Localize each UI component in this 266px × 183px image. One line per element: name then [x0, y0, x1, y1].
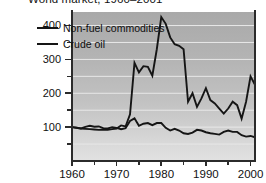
y-tick-major — [65, 126, 72, 128]
y-tick-label: 100 — [43, 122, 61, 133]
x-axis-ticks — [72, 161, 255, 167]
plot-right-spine — [254, 10, 256, 162]
legend-item-crude-oil: Crude oil — [37, 37, 167, 51]
legend-item-non-fuel-commodities: Non-fuel commodities — [37, 21, 167, 35]
x-tick-major — [205, 161, 207, 166]
y-tick-minor — [67, 143, 72, 145]
chart-title: World market, 1960–2001 — [28, 0, 162, 5]
legend-label: Non-fuel commodities — [63, 23, 165, 34]
series-line-0 — [72, 118, 255, 137]
x-tick-label: 1980 — [144, 168, 178, 180]
legend-line-swatch — [37, 43, 58, 45]
chart-legend: Non-fuel commodities Crude oil — [37, 21, 167, 53]
y-tick-major — [65, 59, 72, 61]
x-tick-label: 1960 — [55, 168, 89, 180]
x-tick-minor — [138, 161, 140, 165]
x-tick-label: 1970 — [100, 168, 134, 180]
chart-container: World market, 1960–2001 100200300400 Non… — [0, 0, 266, 183]
x-tick-label: 2000 — [234, 168, 266, 180]
y-tick-minor — [67, 76, 72, 78]
x-tick-label: 1990 — [189, 168, 223, 180]
x-tick-major — [250, 161, 252, 166]
x-tick-minor — [183, 161, 185, 165]
y-tick-label: 300 — [43, 54, 61, 65]
y-tick-major — [65, 92, 72, 94]
y-tick-minor — [67, 109, 72, 111]
x-tick-minor — [94, 161, 96, 165]
x-tick-major — [116, 161, 118, 166]
x-tick-major — [160, 161, 162, 166]
y-tick-label: 200 — [43, 88, 61, 99]
legend-line-swatch — [37, 27, 58, 29]
x-tick-major — [71, 161, 73, 166]
legend-label: Crude oil — [63, 39, 105, 50]
x-tick-minor — [227, 161, 229, 165]
